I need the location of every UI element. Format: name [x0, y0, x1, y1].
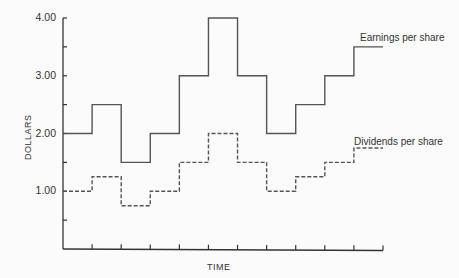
x-axis: [63, 249, 383, 251]
earnings-line: [63, 18, 383, 162]
legend-dividends-label: Dividends per share: [354, 136, 443, 147]
y-tick-label: 1.00: [16, 184, 56, 196]
y-tick-label: 2.00: [16, 127, 56, 139]
y-axis-label: DOLLARS: [23, 114, 33, 160]
axes: [63, 18, 383, 251]
dividends-line: [63, 134, 383, 206]
y-tick-label: 4.00: [16, 11, 56, 23]
series-lines: [63, 18, 383, 206]
y-tick-label: 3.00: [16, 69, 56, 81]
legend-earnings-label: Earnings per share: [360, 32, 445, 43]
x-axis-label: TIME: [207, 262, 231, 272]
